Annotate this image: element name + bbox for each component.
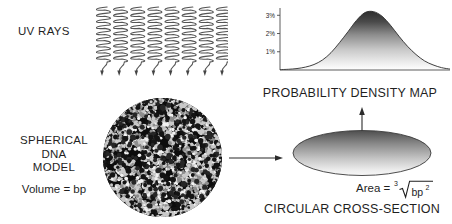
spherical-dna-model-icon (102, 97, 223, 218)
circular-cross-section-icon (288, 104, 436, 186)
caption-line-2: DNA (8, 148, 100, 162)
uv-rays-label: UV RAYS (18, 25, 70, 39)
area-formula: Area = 3 bp 2 (356, 178, 435, 199)
volume-formula: Volume = bp (8, 183, 100, 197)
transform-arrow-icon (228, 150, 284, 166)
probability-density-chart: 1%2%3% (258, 4, 452, 82)
cube-root-radical: 3 bp 2 (393, 178, 435, 199)
circular-cross-section-caption: CIRCULAR CROSS-SECTION (252, 202, 452, 217)
caption-line-1: SPHERICAL (8, 134, 100, 148)
probability-density-map-caption: PROBABILITY DENSITY MAP (250, 86, 450, 101)
spherical-dna-model-caption: SPHERICAL DNA MODEL (8, 134, 100, 175)
radicand-exponent: 2 (426, 184, 430, 191)
radical-index: 3 (394, 180, 398, 187)
uv-rays-icon (96, 4, 228, 78)
chart-y-tick-label: 2% (266, 30, 276, 37)
cross-section-ellipse (293, 131, 431, 176)
caption-line-3: MODEL (8, 161, 100, 175)
area-label: Area = (356, 182, 390, 196)
chart-y-tick-label: 1% (266, 48, 276, 55)
cross-section-arrowhead (359, 107, 365, 115)
chart-y-tick-label: 3% (266, 12, 276, 19)
dna-uv-diagram: UV RAYS 1%2%3% PROBABILITY DENSITY MAP S (0, 0, 452, 224)
radicand-base: bp (412, 186, 424, 198)
